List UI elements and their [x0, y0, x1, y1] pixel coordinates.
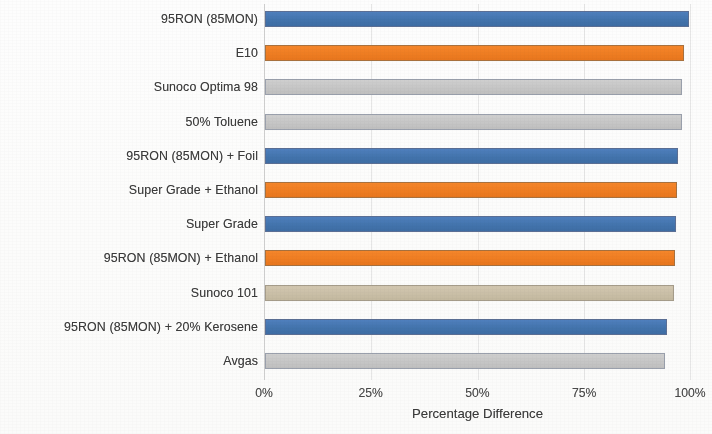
x-tick-label: 25%: [359, 386, 383, 400]
category-label: 95RON (85MON) + 20% Kerosene: [0, 320, 258, 334]
bar-row: Sunoco 101: [0, 276, 712, 310]
x-tick-label: 100%: [674, 386, 705, 400]
bar-row: 50% Toluene: [0, 105, 712, 139]
bar: [265, 319, 667, 335]
bar-row: E10: [0, 36, 712, 70]
x-axis-title: Percentage Difference: [264, 406, 691, 421]
bar: [265, 45, 684, 61]
bar-rows: 95RON (85MON)E10Sunoco Optima 9850% Tolu…: [0, 0, 712, 380]
bar-row: Sunoco Optima 98: [0, 70, 712, 104]
category-label: E10: [0, 46, 258, 60]
bar: [265, 216, 676, 232]
bar-row: Super Grade: [0, 207, 712, 241]
category-label: 95RON (85MON) + Foil: [0, 149, 258, 163]
bar: [265, 285, 674, 301]
bar: [265, 353, 665, 369]
bar-row: 95RON (85MON) + 20% Kerosene: [0, 310, 712, 344]
category-label: Avgas: [0, 354, 258, 368]
category-label: 95RON (85MON) + Ethanol: [0, 251, 258, 265]
bar: [265, 250, 675, 266]
category-label: Sunoco Optima 98: [0, 80, 258, 94]
bar-row: Super Grade + Ethanol: [0, 173, 712, 207]
x-tick-label: 50%: [465, 386, 489, 400]
bar: [265, 11, 689, 27]
category-label: 95RON (85MON): [0, 12, 258, 26]
category-label: Super Grade: [0, 217, 258, 231]
x-tick-label: 0%: [255, 386, 273, 400]
x-tick-label: 75%: [572, 386, 596, 400]
category-label: 50% Toluene: [0, 115, 258, 129]
bar: [265, 79, 682, 95]
category-label: Super Grade + Ethanol: [0, 183, 258, 197]
bar-row: 95RON (85MON) + Foil: [0, 139, 712, 173]
bar-chart: 95RON (85MON)E10Sunoco Optima 9850% Tolu…: [0, 0, 712, 434]
bar: [265, 114, 682, 130]
category-label: Sunoco 101: [0, 286, 258, 300]
bar: [265, 148, 678, 164]
x-axis: 0% 25% 50% 75% 100% Percentage Differenc…: [0, 380, 712, 434]
bar: [265, 182, 677, 198]
bar-row: Avgas: [0, 344, 712, 378]
bar-row: 95RON (85MON): [0, 2, 712, 36]
bar-row: 95RON (85MON) + Ethanol: [0, 241, 712, 275]
